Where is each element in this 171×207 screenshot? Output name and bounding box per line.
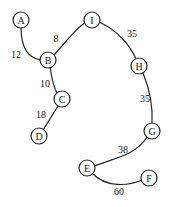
node-label: F (146, 173, 152, 184)
node-label: C (59, 94, 66, 105)
node-I: I (84, 12, 100, 28)
node-label: E (84, 163, 90, 174)
node-label: H (135, 61, 142, 72)
node-G: G (144, 123, 160, 139)
node-label: B (45, 55, 52, 66)
edge-weight-A-B: 12 (11, 49, 21, 60)
node-label: G (148, 126, 155, 137)
edge-weight-H-G: 35 (140, 93, 150, 104)
edge-E-F (92, 173, 142, 184)
edge-weight-E-F: 60 (114, 186, 124, 197)
edge-B-C (50, 67, 57, 93)
edge-A-B (21, 27, 41, 60)
edge-weight-B-I: 8 (54, 33, 59, 44)
node-label: A (17, 15, 25, 26)
node-A: A (13, 12, 29, 28)
edge-weight-G-E: 38 (118, 144, 128, 155)
node-C: C (54, 91, 70, 107)
edge-B-I (54, 22, 86, 55)
graph-diagram: 128101835353860 ABCDIHGEF (0, 0, 171, 207)
node-F: F (141, 170, 157, 186)
node-D: D (31, 128, 47, 144)
edge-weight-C-D: 18 (36, 109, 46, 120)
node-H: H (131, 58, 147, 74)
node-label: I (90, 15, 93, 26)
edge-weight-B-C: 10 (40, 78, 50, 89)
node-E: E (79, 160, 95, 176)
node-B: B (40, 52, 56, 68)
nodes: ABCDIHGEF (13, 12, 160, 186)
node-label: D (35, 131, 42, 142)
edge-weight-I-H: 35 (127, 28, 137, 39)
